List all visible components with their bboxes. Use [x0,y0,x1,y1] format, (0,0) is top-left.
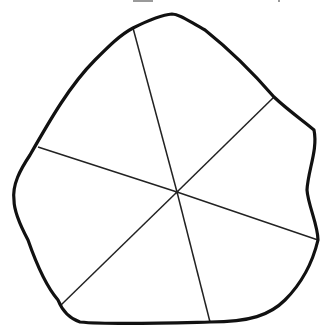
center-point [175,190,178,193]
spoke-bottom [177,192,210,322]
spoke-top [133,28,177,192]
spoke-lower-right [177,192,318,240]
spoke-upper-right [177,97,274,192]
sector-diagram [0,0,327,333]
shape-outline [14,14,318,324]
spoke-left [38,147,177,192]
spokes-group [38,28,318,322]
spoke-lower-left [61,192,177,305]
